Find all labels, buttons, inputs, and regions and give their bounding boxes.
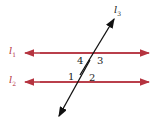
label-l3: l3 <box>114 5 121 15</box>
angle-2: 2 <box>89 73 95 83</box>
angle-3: 3 <box>97 56 103 66</box>
label-l2: l2 <box>9 75 16 85</box>
line-l3 <box>80 19 114 75</box>
angle-1: 1 <box>68 72 74 82</box>
angle-4: 4 <box>77 56 83 66</box>
label-l1: l1 <box>9 46 16 56</box>
